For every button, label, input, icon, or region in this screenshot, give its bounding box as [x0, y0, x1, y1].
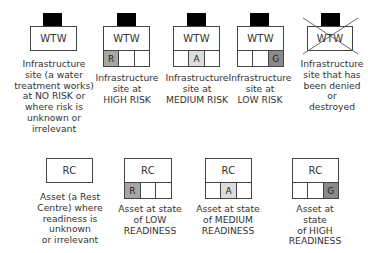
rc-label: RC [141, 165, 155, 176]
readiness-cell-amber: A [220, 183, 235, 198]
wtw-label: WTW [247, 33, 273, 44]
wtw-box: WTW [237, 26, 284, 51]
readiness-cell-red [293, 183, 307, 198]
caption-medium-risk: Infrastructure site at MEDIUM RISK [166, 73, 229, 105]
rc-box: RC [46, 158, 93, 183]
caption-high-readiness: Asset at state of HIGH READINESS [289, 204, 342, 247]
readiness-cell-red [206, 183, 220, 198]
rc-box: RC [124, 158, 172, 183]
readiness-cell-green: G [323, 183, 338, 198]
readiness-cell-amber [307, 183, 322, 198]
cross-out-icon [300, 15, 362, 57]
rc-box: RC [292, 158, 339, 183]
readiness-cells: R [124, 183, 172, 199]
readiness-cell-green [155, 183, 171, 198]
risk-cell-red: R [104, 51, 118, 66]
site-tab-icon [117, 13, 136, 26]
risk-cells: G [237, 51, 284, 67]
caption-no-risk: Infrastructure site (a water treatment w… [14, 59, 94, 135]
readiness-cell-red: R [125, 183, 140, 198]
wtw-label: WTW [113, 33, 139, 44]
wtw-box: WTW [103, 26, 150, 51]
risk-cell-green [134, 51, 149, 66]
risk-cells: A [173, 51, 220, 67]
risk-cell-red [174, 51, 188, 66]
caption-medium-readiness: Asset at state of MEDIUM READINESS [196, 204, 259, 236]
risk-cell-red [238, 51, 252, 66]
risk-cell-green [204, 51, 219, 66]
readiness-cells: G [292, 183, 339, 199]
caption-low-readiness: Asset at state of LOW READINESS [118, 204, 181, 236]
rc-box: RC [205, 158, 252, 183]
readiness-cells: A [205, 183, 252, 199]
rc-label: RC [63, 165, 77, 176]
readiness-cell-amber [140, 183, 156, 198]
wtw-box: WTW [173, 26, 220, 51]
wtw-box: WTW [30, 26, 77, 51]
caption-denied: Infrastructure site that has been denied… [301, 59, 364, 113]
risk-cells: R [103, 51, 150, 67]
risk-cell-amber [252, 51, 267, 66]
site-tab-icon [250, 13, 269, 26]
caption-unknown-readiness: Asset (a Rest Centre) where readiness is… [37, 192, 102, 246]
risk-cell-amber: A [188, 51, 203, 66]
rc-label: RC [222, 165, 236, 176]
caption-high-risk: Infrastructure site at HIGH RISK [96, 73, 159, 105]
rc-label: RC [309, 165, 323, 176]
site-tab-icon [187, 13, 206, 26]
wtw-label: WTW [183, 33, 209, 44]
caption-low-risk: Infrastructure site at LOW RISK [229, 73, 292, 105]
risk-cell-amber [118, 51, 133, 66]
risk-cell-green: G [268, 51, 283, 66]
wtw-label: WTW [40, 33, 66, 44]
site-tab-icon [43, 13, 62, 26]
readiness-cell-green [236, 183, 251, 198]
